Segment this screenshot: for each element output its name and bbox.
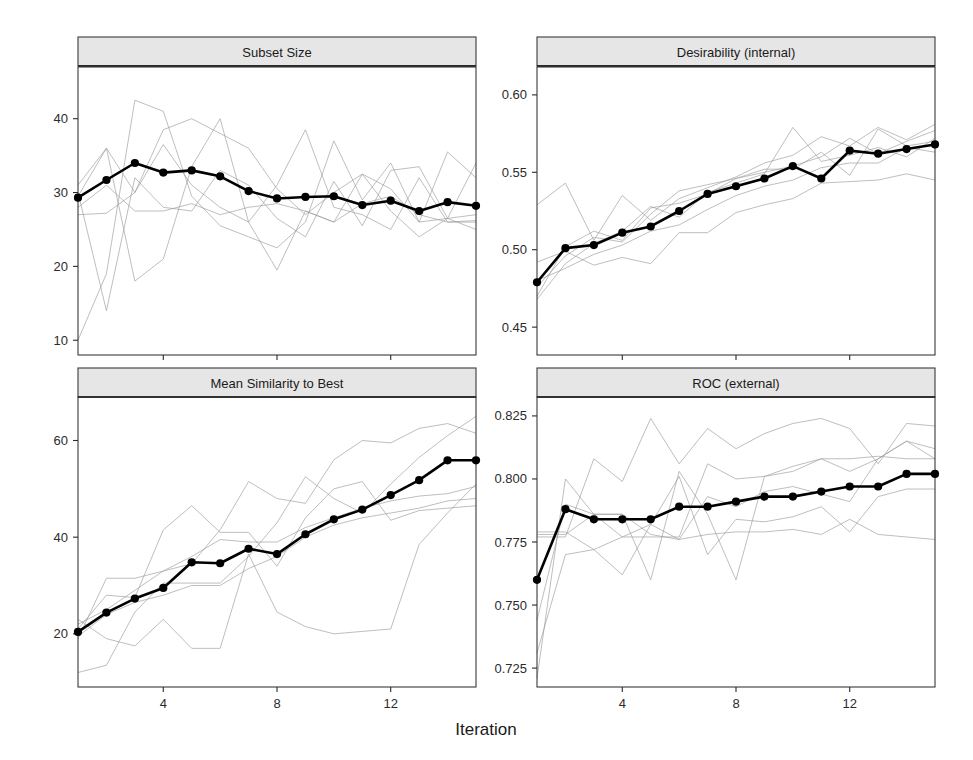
mean-data-point bbox=[874, 150, 882, 158]
mean-data-point bbox=[618, 229, 626, 237]
x-tick-label: 12 bbox=[383, 696, 397, 711]
mean-data-point bbox=[74, 194, 82, 202]
panel-title: ROC (external) bbox=[692, 376, 779, 391]
y-tick-label: 20 bbox=[54, 259, 68, 274]
mean-data-point bbox=[358, 201, 366, 209]
x-axis-label: Iteration bbox=[455, 720, 516, 739]
y-tick-label: 0.750 bbox=[494, 598, 527, 613]
mean-data-point bbox=[533, 576, 541, 584]
mean-data-point bbox=[760, 174, 768, 182]
y-tick-label: 40 bbox=[54, 530, 68, 545]
mean-data-point bbox=[159, 169, 167, 177]
panel-title: Mean Similarity to Best bbox=[211, 376, 344, 391]
mean-data-point bbox=[102, 176, 110, 184]
mean-data-point bbox=[931, 140, 939, 148]
mean-data-point bbox=[647, 515, 655, 523]
mean-data-point bbox=[415, 207, 423, 215]
y-tick-label: 20 bbox=[54, 626, 68, 641]
mean-data-point bbox=[590, 515, 598, 523]
mean-data-point bbox=[647, 222, 655, 230]
mean-data-point bbox=[618, 515, 626, 523]
mean-data-point bbox=[817, 487, 825, 495]
mean-data-point bbox=[789, 162, 797, 170]
mean-data-point bbox=[732, 498, 740, 506]
mean-data-point bbox=[216, 172, 224, 180]
mean-data-point bbox=[244, 545, 252, 553]
mean-data-point bbox=[675, 207, 683, 215]
mean-data-point bbox=[330, 515, 338, 523]
mean-data-point bbox=[358, 506, 366, 514]
y-tick-label: 60 bbox=[54, 433, 68, 448]
x-tick-label: 8 bbox=[273, 696, 280, 711]
mean-data-point bbox=[817, 174, 825, 182]
y-tick-label: 0.60 bbox=[502, 87, 527, 102]
mean-data-point bbox=[443, 198, 451, 206]
mean-data-point bbox=[703, 190, 711, 198]
mean-data-point bbox=[387, 491, 395, 499]
mean-data-point bbox=[533, 278, 541, 286]
mean-data-point bbox=[703, 503, 711, 511]
x-tick-label: 8 bbox=[732, 696, 739, 711]
mean-data-point bbox=[902, 145, 910, 153]
y-tick-label: 0.50 bbox=[502, 242, 527, 257]
mean-data-point bbox=[472, 202, 480, 210]
trellis-figure: Subset Size10203040Desirability (interna… bbox=[0, 0, 973, 760]
mean-data-point bbox=[188, 166, 196, 174]
y-tick-label: 30 bbox=[54, 185, 68, 200]
mean-data-point bbox=[561, 244, 569, 252]
x-tick-label: 4 bbox=[619, 696, 626, 711]
mean-data-point bbox=[789, 493, 797, 501]
mean-data-point bbox=[387, 197, 395, 205]
y-tick-label: 0.800 bbox=[494, 471, 527, 486]
mean-data-point bbox=[472, 456, 480, 464]
mean-data-point bbox=[902, 470, 910, 478]
mean-data-point bbox=[415, 476, 423, 484]
mean-data-point bbox=[273, 550, 281, 558]
mean-data-point bbox=[760, 493, 768, 501]
y-tick-label: 0.825 bbox=[494, 408, 527, 423]
y-tick-label: 0.45 bbox=[502, 320, 527, 335]
mean-data-point bbox=[732, 182, 740, 190]
mean-data-point bbox=[131, 159, 139, 167]
mean-data-point bbox=[301, 193, 309, 201]
y-tick-label: 0.55 bbox=[502, 165, 527, 180]
y-tick-label: 40 bbox=[54, 111, 68, 126]
mean-data-point bbox=[159, 584, 167, 592]
mean-data-point bbox=[874, 482, 882, 490]
mean-data-point bbox=[188, 558, 196, 566]
mean-data-point bbox=[74, 628, 82, 636]
panel-title: Desirability (internal) bbox=[677, 45, 795, 60]
mean-data-point bbox=[301, 530, 309, 538]
mean-data-point bbox=[131, 594, 139, 602]
mean-data-point bbox=[675, 503, 683, 511]
mean-data-point bbox=[330, 192, 338, 200]
x-tick-label: 4 bbox=[160, 696, 167, 711]
mean-data-point bbox=[443, 456, 451, 464]
mean-data-point bbox=[590, 241, 598, 249]
mean-data-point bbox=[216, 559, 224, 567]
mean-data-point bbox=[561, 505, 569, 513]
mean-data-point bbox=[102, 608, 110, 616]
mean-data-point bbox=[273, 194, 281, 202]
mean-data-point bbox=[931, 470, 939, 478]
y-tick-label: 10 bbox=[54, 333, 68, 348]
y-tick-label: 0.775 bbox=[494, 535, 527, 550]
mean-data-point bbox=[846, 147, 854, 155]
panel-title: Subset Size bbox=[242, 45, 311, 60]
mean-data-point bbox=[846, 482, 854, 490]
mean-data-point bbox=[244, 187, 252, 195]
y-tick-label: 0.725 bbox=[494, 661, 527, 676]
x-tick-label: 12 bbox=[842, 696, 856, 711]
